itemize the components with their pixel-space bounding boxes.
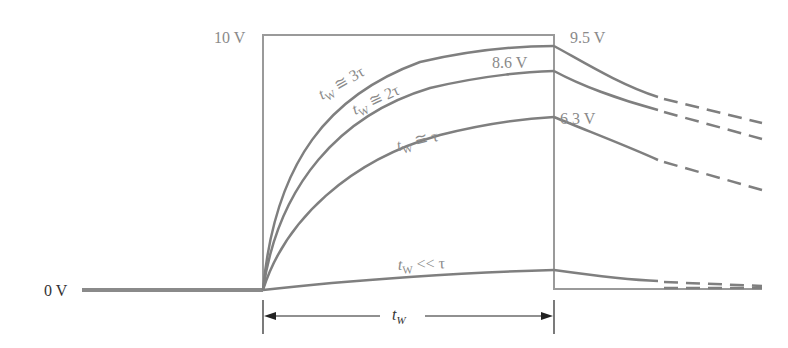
discharge-curves bbox=[554, 46, 658, 281]
svg-text:tW ≅ 3τ: tW ≅ 3τ bbox=[315, 62, 369, 105]
curve-label-3tau: tW ≅ 3τ bbox=[315, 62, 369, 105]
label-10v: 10 V bbox=[214, 29, 246, 46]
label-tw-dimension: tW bbox=[392, 306, 406, 326]
charging-curves bbox=[263, 46, 554, 290]
label-9-5v: 9.5 V bbox=[570, 29, 606, 46]
curve-3tau bbox=[263, 46, 554, 290]
curve-label-tau: tW ≅ τ bbox=[395, 127, 441, 157]
pulse-width-dimension bbox=[263, 300, 554, 334]
label-8-6v: 8.6 V bbox=[492, 54, 528, 71]
curve-2tau bbox=[263, 71, 554, 290]
svg-text:tW ≅ τ: tW ≅ τ bbox=[395, 127, 441, 157]
label-0v: 0 V bbox=[44, 282, 68, 299]
curve-label-lt-tau: tW << τ bbox=[398, 254, 447, 276]
discharge-extrapolation bbox=[664, 99, 762, 288]
svg-text:tW << τ: tW << τ bbox=[398, 254, 447, 276]
rc-response-diagram: 10 V 0 V 9.5 V 8.6 V 6.3 V tW ≅ 3τ tW ≅ … bbox=[0, 0, 788, 348]
label-6-3v: 6.3 V bbox=[560, 110, 596, 127]
